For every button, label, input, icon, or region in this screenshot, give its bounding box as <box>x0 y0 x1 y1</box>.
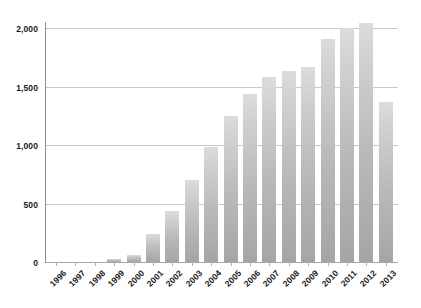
xlabel-2007: 2007 <box>261 268 282 289</box>
bar-2004 <box>204 147 218 262</box>
bar-2013 <box>379 102 393 262</box>
ytick-label-2000: 2,000 <box>2 24 38 34</box>
ytick-label-0: 0 <box>2 258 38 268</box>
xtick-2012 <box>366 262 367 266</box>
bar-2008 <box>282 71 296 262</box>
xtick-2010 <box>328 262 329 266</box>
xlabel-2005: 2005 <box>222 268 243 289</box>
xtick-2008 <box>289 262 290 266</box>
xlabel-1996: 1996 <box>48 268 69 289</box>
gridline-zero-baseline <box>46 262 398 263</box>
bar-2002 <box>165 211 179 262</box>
plot-area <box>46 10 398 262</box>
bar-2010 <box>321 39 335 262</box>
bar-2005 <box>224 116 238 262</box>
bar-2006 <box>243 94 257 262</box>
xtick-2000 <box>134 262 135 266</box>
bar-2007 <box>262 77 276 262</box>
xtick-2004 <box>211 262 212 266</box>
xlabel-2003: 2003 <box>183 268 204 289</box>
xlabel-2002: 2002 <box>164 268 185 289</box>
xtick-2006 <box>250 262 251 266</box>
xlabel-2008: 2008 <box>280 268 301 289</box>
xlabel-2004: 2004 <box>203 268 224 289</box>
ytick-label-1000: 1,000 <box>2 141 38 151</box>
xtick-2011 <box>347 262 348 266</box>
bar-2003 <box>185 180 199 262</box>
ytick-label-1500: 1,500 <box>2 83 38 93</box>
xlabel-2013: 2013 <box>377 268 398 289</box>
xlabel-1998: 1998 <box>86 268 107 289</box>
xtick-2001 <box>153 262 154 266</box>
xtick-1998 <box>95 262 96 266</box>
xtick-2009 <box>308 262 309 266</box>
xtick-2002 <box>172 262 173 266</box>
xlabel-2001: 2001 <box>145 268 166 289</box>
bar-2012 <box>359 23 373 262</box>
xlabel-2012: 2012 <box>358 268 379 289</box>
xtick-2005 <box>231 262 232 266</box>
xtick-1996 <box>56 262 57 266</box>
xlabel-1999: 1999 <box>106 268 127 289</box>
ytick-label-500: 500 <box>2 200 38 210</box>
bar-chart: 2,000 1,500 1,000 500 0 1996 1997 1998 1… <box>0 0 421 308</box>
bar-2009 <box>301 67 315 262</box>
bar-2000 <box>127 255 141 262</box>
xtick-2007 <box>269 262 270 266</box>
xlabel-2006: 2006 <box>242 268 263 289</box>
xtick-2003 <box>192 262 193 266</box>
xtick-1997 <box>75 262 76 266</box>
xtick-2013 <box>386 262 387 266</box>
xlabel-1997: 1997 <box>67 268 88 289</box>
xtick-1999 <box>114 262 115 266</box>
xlabel-2011: 2011 <box>339 268 359 288</box>
bar-2001 <box>146 234 160 262</box>
xlabel-2010: 2010 <box>319 268 340 289</box>
xlabel-2000: 2000 <box>125 268 146 289</box>
bar-2011 <box>340 28 354 262</box>
y-axis-line <box>45 22 46 263</box>
xlabel-2009: 2009 <box>300 268 321 289</box>
bar-series <box>46 10 398 262</box>
